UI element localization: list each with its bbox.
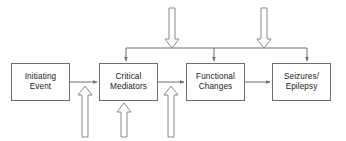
bottom-input-arrow-1 xyxy=(78,86,92,137)
node-seizures-epilepsy[interactable]: Seizures/ Epilepsy xyxy=(272,63,331,101)
top-input-arrow-1 xyxy=(165,8,179,48)
node-label-initiating-event: Initiating Event xyxy=(25,72,57,91)
node-label-seizures-epilepsy: Seizures/ Epilepsy xyxy=(284,72,319,91)
bottom-input-arrow-2 xyxy=(117,103,131,137)
node-label-critical-mediators: Critical Mediators xyxy=(110,72,147,91)
distribution-bus xyxy=(126,48,307,61)
node-label-functional-changes: Functional Changes xyxy=(196,72,235,91)
top-input-arrow-2 xyxy=(257,8,271,48)
node-functional-changes[interactable]: Functional Changes xyxy=(186,63,245,101)
bottom-input-arrow-3 xyxy=(164,86,178,137)
node-critical-mediators[interactable]: Critical Mediators xyxy=(99,63,158,101)
diagram-canvas: Initiating Event Critical Mediators Func… xyxy=(0,0,346,141)
node-initiating-event[interactable]: Initiating Event xyxy=(11,63,70,101)
